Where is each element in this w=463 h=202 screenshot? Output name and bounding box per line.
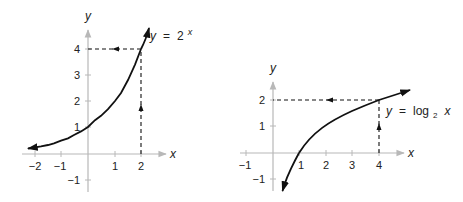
- y-tick-label: 2: [74, 95, 80, 107]
- y-tick-label: 3: [74, 69, 80, 81]
- x-tick-label: −1: [239, 159, 252, 171]
- y-tick-label: 2: [259, 94, 265, 106]
- x-tick-label: 1: [112, 160, 118, 172]
- equation-label: y = 2 x: [149, 26, 193, 43]
- y-tick-label: 1: [259, 120, 265, 132]
- logarithm-curve-lower: [283, 153, 300, 191]
- left-arrow-icon: [326, 98, 333, 103]
- up-arrow-icon: [139, 104, 144, 111]
- x-tick-label: 2: [323, 159, 329, 171]
- exponential-curve: [141, 28, 149, 49]
- y-axis-label: y: [269, 61, 277, 75]
- y-tick-label: −1: [252, 173, 265, 185]
- x-tick-label: 4: [376, 159, 382, 171]
- function-graphs: −2 −1 1 2 4 3 2 1 −1 x y y = 2 x: [0, 0, 463, 202]
- x-tick-label: 3: [349, 159, 355, 171]
- y-tick-label: 1: [74, 121, 80, 133]
- y-tick-label: 4: [74, 43, 80, 55]
- logarithm-graph: −1 1 2 3 4 2 1 −1 x y y = log 2 x: [239, 61, 452, 191]
- y-axis-label: y: [84, 9, 92, 23]
- x-tick-label: −1: [54, 160, 67, 172]
- y-tick-label: −1: [67, 174, 80, 186]
- up-arrow-icon: [377, 123, 382, 130]
- x-axis-label: x: [407, 146, 415, 160]
- x-tick-label: 2: [138, 160, 144, 172]
- exponential-graph: −2 −1 1 2 4 3 2 1 −1 x y y = 2 x: [22, 9, 193, 192]
- equation-label: y = log 2 x: [385, 101, 451, 121]
- x-tick-label: 1: [298, 159, 304, 171]
- exponential-curve-left: [28, 49, 141, 149]
- x-tick-label: −2: [29, 160, 42, 172]
- x-axis-label: x: [169, 147, 177, 161]
- left-arrow-icon: [112, 47, 119, 52]
